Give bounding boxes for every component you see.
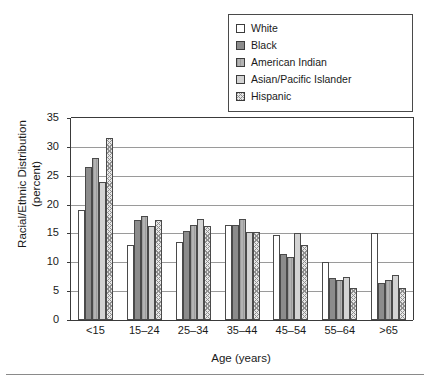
bar <box>301 245 308 320</box>
bar-group <box>315 118 364 320</box>
legend-item-white[interactable]: White <box>236 20 405 37</box>
bar <box>399 288 406 320</box>
bar <box>239 219 246 320</box>
legend-item-american-indian[interactable]: American Indian <box>236 54 405 71</box>
bar <box>78 210 85 320</box>
y-tick-label: 15 <box>33 226 59 238</box>
bar <box>232 225 239 320</box>
bar <box>385 280 392 320</box>
bottom-divider <box>6 374 424 375</box>
bar <box>273 235 280 320</box>
bar <box>246 232 253 320</box>
bar-group <box>169 118 218 320</box>
bar <box>148 226 155 320</box>
y-axis-title-line1: Racial/Ethnic Distribution <box>16 120 28 248</box>
y-tick-label: 35 <box>33 111 59 123</box>
bar <box>85 167 92 320</box>
bar <box>322 262 329 320</box>
y-tick-mark <box>67 320 71 321</box>
legend-item-black[interactable]: Black <box>236 37 405 54</box>
bar <box>336 280 343 320</box>
y-tick-label: 5 <box>33 284 59 296</box>
bar <box>155 220 162 320</box>
bar-group <box>120 118 169 320</box>
bar-groups <box>71 118 413 320</box>
bar <box>225 225 232 320</box>
y-tick-label: 20 <box>33 198 59 210</box>
y-tick-label: 10 <box>33 255 59 267</box>
chart-container: White Black American Indian Asian/Pacifi… <box>0 0 430 381</box>
chart-legend: White Black American Indian Asian/Pacifi… <box>228 14 413 112</box>
bar <box>253 232 260 320</box>
legend-label: White <box>251 23 278 34</box>
bar <box>378 283 385 321</box>
y-tick-label: 25 <box>33 169 59 181</box>
hispanic-swatch-icon <box>236 92 245 101</box>
plot-area: 05101520253035 <1515–2425–3435–4445–5455… <box>70 118 413 321</box>
black-swatch-icon <box>236 41 245 50</box>
american-indian-swatch-icon <box>236 58 245 67</box>
x-tick-label: >65 <box>359 324 419 336</box>
legend-label: Black <box>251 40 277 51</box>
asian-pacific-islander-swatch-icon <box>236 75 245 84</box>
bar-group <box>71 118 120 320</box>
bar <box>190 225 197 320</box>
legend-item-hispanic[interactable]: Hispanic <box>236 88 405 105</box>
bar <box>176 242 183 320</box>
bar <box>371 233 378 320</box>
y-tick-label: 30 <box>33 140 59 152</box>
bar <box>329 278 336 320</box>
legend-label: Asian/Pacific Islander <box>251 74 351 85</box>
bar-group <box>364 118 413 320</box>
bar-group <box>218 118 267 320</box>
bar <box>141 216 148 320</box>
bar <box>350 288 357 320</box>
bar <box>127 245 134 320</box>
legend-label: Hispanic <box>251 91 291 102</box>
bar <box>280 254 287 320</box>
bar <box>183 231 190 320</box>
bar-group <box>266 118 315 320</box>
bar <box>92 158 99 320</box>
y-tick-label: 0 <box>33 313 59 325</box>
bar <box>106 138 113 320</box>
bar <box>343 277 350 320</box>
bar <box>392 275 399 320</box>
legend-item-asian-pacific-islander[interactable]: Asian/Pacific Islander <box>236 71 405 88</box>
bar <box>197 219 204 320</box>
x-axis-title: Age (years) <box>70 352 412 364</box>
white-swatch-icon <box>236 24 245 33</box>
bar <box>287 257 294 320</box>
bar <box>204 226 211 320</box>
bar <box>294 233 301 320</box>
bar <box>99 182 106 321</box>
legend-label: American Indian <box>251 57 327 68</box>
bar <box>134 220 141 320</box>
